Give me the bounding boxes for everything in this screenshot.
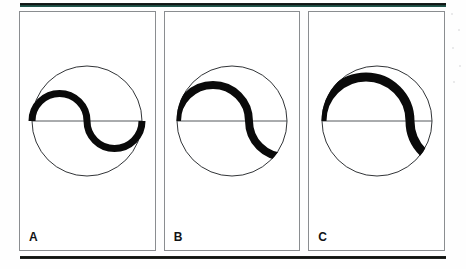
panel-c-artwork [316, 60, 438, 182]
panel-a[interactable]: A [19, 11, 156, 251]
s-curve-diagram-b [171, 60, 293, 182]
panel-b[interactable]: B [164, 11, 301, 251]
top-rule [20, 3, 446, 7]
panel-label-c: C [318, 231, 327, 243]
panel-a-artwork [26, 60, 148, 182]
s-curve-diagram-c [316, 60, 438, 182]
panel-strip: A B [19, 11, 445, 251]
panel-b-artwork [171, 60, 293, 182]
panel-label-a: A [29, 231, 38, 243]
figure-root: A B [0, 0, 466, 269]
scan-margin-speckle [448, 8, 466, 98]
bottom-rule [20, 256, 446, 259]
panel-label-b: B [174, 231, 183, 243]
panel-c[interactable]: C [308, 11, 445, 251]
s-curve-diagram-a [26, 60, 148, 182]
